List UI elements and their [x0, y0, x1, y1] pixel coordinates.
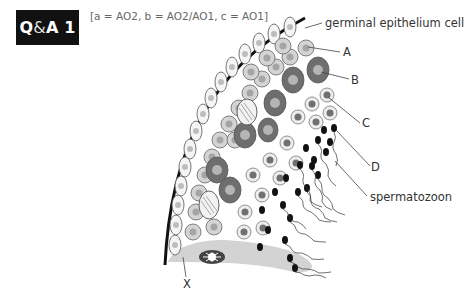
- label-germinal-epithelium-cell: germinal epithelium cell: [325, 16, 464, 30]
- label-X: X: [183, 277, 191, 291]
- seminiferous-tubule-diagram: [0, 0, 469, 293]
- label-A: A: [343, 45, 351, 59]
- label-spermatozoon: spermatozoon: [370, 190, 452, 204]
- label-C: C: [362, 116, 370, 130]
- label-D: D: [371, 160, 380, 174]
- label-B: B: [351, 73, 359, 87]
